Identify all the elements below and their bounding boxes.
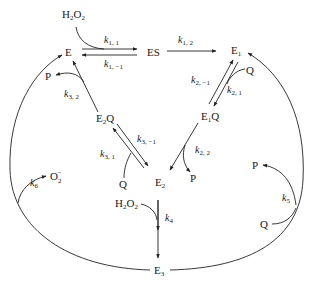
species-q-top: Q xyxy=(246,64,254,76)
arrow-e2q-to-e xyxy=(73,61,98,112)
species-e3: E3 xyxy=(154,264,165,278)
rate-k3m1: k3, −1 xyxy=(137,133,156,146)
species-p-left: P xyxy=(45,70,51,82)
rate-k22: k2, 2 xyxy=(195,144,210,157)
arrow-q-into-k5 xyxy=(272,208,296,224)
rate-k4: k4 xyxy=(165,212,173,225)
species-h2o2-top: H2O2 xyxy=(62,8,85,22)
rate-k12: k1, 2 xyxy=(178,34,193,47)
arrow-e1q-to-e2 xyxy=(170,123,198,170)
arrow-e3-to-e1 xyxy=(170,53,303,270)
species-o2-radical: O2− xyxy=(50,169,62,185)
arrow-h2o2-into-k4 xyxy=(141,204,157,220)
rate-k1m1: k1, −1 xyxy=(104,58,123,71)
species-e2: E2 xyxy=(155,176,166,190)
species-e2q: E2Q xyxy=(96,112,114,126)
arrow-e3-to-e xyxy=(10,55,150,270)
species-es: ES xyxy=(147,46,160,58)
rate-k2m1: k2, −1 xyxy=(191,74,210,87)
arrow-product-p-mid xyxy=(183,145,190,172)
rate-k21: k2, 1 xyxy=(227,84,242,97)
species-e: E xyxy=(65,46,72,58)
arrow-q-into-k31 xyxy=(124,153,131,178)
arrow-product-p-right xyxy=(263,165,296,205)
species-q-mid: Q xyxy=(119,178,127,190)
rate-k32: k3, 2 xyxy=(64,88,79,101)
species-p-mid: P xyxy=(190,172,196,184)
species-e1: E1 xyxy=(231,44,242,58)
rate-k11: k1, 1 xyxy=(104,34,119,47)
reaction-diagram: H2O2 E ES E1 Q E1Q P E2Q O2− Q E2 P P Q … xyxy=(0,0,312,287)
species-q-right: Q xyxy=(260,218,268,230)
rate-k5: k5 xyxy=(282,192,290,205)
species-e1q: E1Q xyxy=(201,110,219,124)
species-h2o2-mid: H2O2 xyxy=(115,197,138,211)
arrow-h2o2-into-k11 xyxy=(76,27,104,49)
arrow-e1q-to-e1 xyxy=(209,60,233,104)
rate-k31: k3, 1 xyxy=(100,148,115,161)
arrow-e1-to-e1q xyxy=(214,62,238,106)
species-p-right: P xyxy=(252,159,258,171)
